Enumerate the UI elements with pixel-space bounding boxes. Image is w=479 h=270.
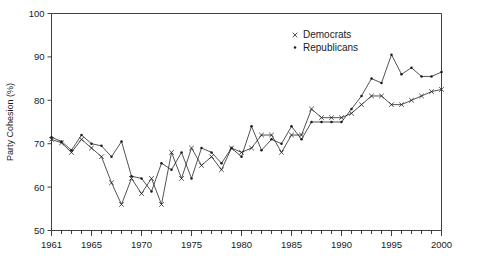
data-point-marker — [320, 121, 323, 124]
data-point-marker — [120, 140, 123, 143]
data-point-marker — [419, 94, 424, 99]
data-point-marker — [189, 146, 194, 151]
series-path — [52, 55, 442, 192]
y-tick-label: 50 — [34, 225, 45, 236]
legend-marker-dot — [294, 46, 297, 49]
x-tick-label: 1975 — [181, 239, 202, 250]
data-point-marker — [220, 162, 223, 165]
y-tick-label: 80 — [34, 95, 45, 106]
data-point-marker — [360, 95, 363, 98]
data-point-marker — [60, 140, 63, 143]
data-point-marker — [130, 175, 133, 178]
data-point-marker — [179, 176, 184, 181]
x-tick-label: 2000 — [431, 239, 452, 250]
data-point-marker — [190, 177, 193, 180]
data-point-marker — [410, 67, 413, 70]
data-point-marker — [89, 146, 94, 151]
data-point-marker — [150, 190, 153, 193]
data-point-marker — [280, 142, 283, 145]
y-axis-label: Party Cohesion (%) — [5, 83, 15, 161]
data-point-marker — [99, 154, 104, 159]
data-point-marker — [210, 151, 213, 154]
chart-legend: DemocratsRepublicans — [293, 29, 358, 53]
data-point-marker — [90, 142, 93, 145]
y-tick-label: 100 — [29, 8, 45, 19]
party-cohesion-line-chart: 5060708090100 19611965197019751980198519… — [0, 0, 479, 270]
data-point-marker — [139, 191, 144, 196]
data-point-marker — [160, 162, 163, 165]
data-point-marker — [359, 102, 364, 107]
data-point-marker — [250, 125, 253, 128]
y-axis-title: Party Cohesion (%) — [5, 83, 15, 161]
data-point-marker — [100, 145, 103, 148]
data-point-marker — [170, 168, 173, 171]
x-tick-label: 1985 — [281, 239, 302, 250]
data-point-marker — [380, 82, 383, 85]
data-point-marker — [119, 202, 124, 207]
data-point-marker — [349, 111, 354, 116]
plot-border — [52, 14, 442, 231]
data-point-marker — [209, 154, 214, 159]
data-point-marker — [370, 77, 373, 80]
data-point-marker — [180, 151, 183, 154]
data-point-marker — [149, 176, 154, 181]
y-axis-ticks: 5060708090100 — [29, 8, 52, 236]
data-point-marker — [240, 155, 243, 158]
series-republicans — [50, 53, 443, 192]
data-point-marker — [310, 121, 313, 124]
legend-marker-x — [293, 33, 298, 38]
data-point-marker — [110, 155, 113, 158]
y-tick-label: 60 — [34, 182, 45, 193]
x-tick-label: 1995 — [381, 239, 402, 250]
legend-label: Democrats — [303, 29, 351, 40]
x-tick-label: 1990 — [331, 239, 352, 250]
data-point-marker — [109, 180, 114, 185]
x-tick-label: 1961 — [41, 239, 62, 250]
y-tick-label: 70 — [34, 138, 45, 149]
series-democrats — [49, 87, 444, 207]
x-tick-label: 1970 — [131, 239, 152, 250]
data-point-marker — [390, 53, 393, 56]
data-point-marker — [50, 136, 53, 139]
data-series-group — [49, 53, 444, 206]
data-point-marker — [440, 71, 443, 74]
data-point-marker — [420, 75, 423, 78]
data-point-marker — [199, 163, 204, 168]
data-point-marker — [219, 167, 224, 172]
data-point-marker — [279, 150, 284, 155]
data-point-marker — [309, 107, 314, 112]
data-point-marker — [300, 138, 303, 141]
data-point-marker — [249, 146, 254, 151]
data-point-marker — [350, 108, 353, 111]
data-point-marker — [80, 134, 83, 137]
data-point-marker — [260, 149, 263, 152]
series-path — [52, 89, 442, 204]
x-tick-label: 1965 — [81, 239, 102, 250]
data-point-marker — [270, 138, 273, 141]
data-point-marker — [409, 98, 414, 103]
data-point-marker — [400, 73, 403, 76]
data-point-marker — [140, 177, 143, 180]
y-tick-label: 90 — [34, 51, 45, 62]
data-point-marker — [340, 121, 343, 124]
plot-frame — [52, 14, 442, 231]
legend-label: Republicans — [303, 42, 358, 53]
data-point-marker — [430, 75, 433, 78]
chart-figure: 5060708090100 19611965197019751980198519… — [0, 0, 479, 270]
data-point-marker — [290, 125, 293, 128]
data-point-marker — [200, 147, 203, 150]
data-point-marker — [330, 121, 333, 124]
x-tick-label: 1980 — [231, 239, 252, 250]
x-axis-ticks: 196119651970197519801985199019952000 — [41, 231, 452, 250]
data-point-marker — [70, 149, 73, 152]
data-point-marker — [230, 147, 233, 150]
